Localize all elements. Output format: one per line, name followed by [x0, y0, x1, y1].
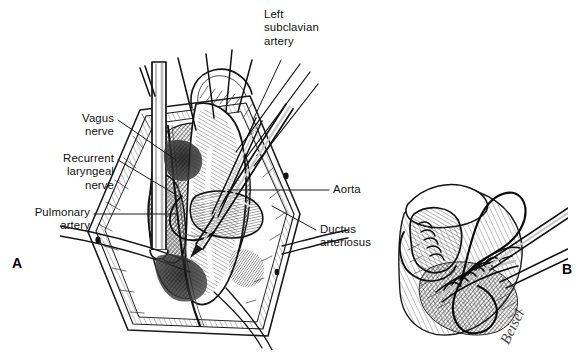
- surgical-figure: Left subclavian artery Vagus nerve Recur…: [0, 0, 586, 356]
- label-aorta: Aorta: [333, 183, 361, 196]
- panel-a-artwork: [60, 50, 348, 350]
- label-pulmonary-artery: Pulmonary artery: [8, 206, 90, 233]
- leader-left-subclavian-artery: [253, 60, 281, 120]
- panel-label-a: A: [12, 255, 22, 271]
- label-vagus-nerve: Vagus nerve: [18, 112, 114, 139]
- panel-b-artwork: [399, 185, 586, 336]
- label-recurrent-laryngeal-nerve: Recurrent laryngeal nerve: [6, 152, 114, 192]
- label-left-subclavian-artery: Left subclavian artery: [264, 8, 319, 48]
- panel-label-b: B: [562, 261, 572, 277]
- label-ductus-arteriosus: Ductus arteriosus: [320, 223, 371, 250]
